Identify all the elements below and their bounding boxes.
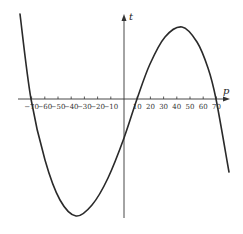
y-axis-arrow-icon [122,14,127,21]
x-axis-label: p [223,85,230,96]
x-tick-label: 30 [159,103,168,111]
y-axis-label: t [129,11,134,22]
x-tick-label: 40 [172,103,181,111]
cubic-curve [20,14,229,216]
x-tick-label: 20 [146,103,155,111]
x-tick-label: 60 [199,103,208,111]
x-axis-tick-labels: −70−60−50−40−30−20−1010203040506070 [24,103,221,111]
x-tick-label: −10 [103,103,118,111]
x-axis-arrow-icon [223,97,230,102]
cubic-function-chart: −70−60−50−40−30−20−1010203040506070 p t [0,0,243,234]
x-tick-label: 50 [186,103,195,111]
